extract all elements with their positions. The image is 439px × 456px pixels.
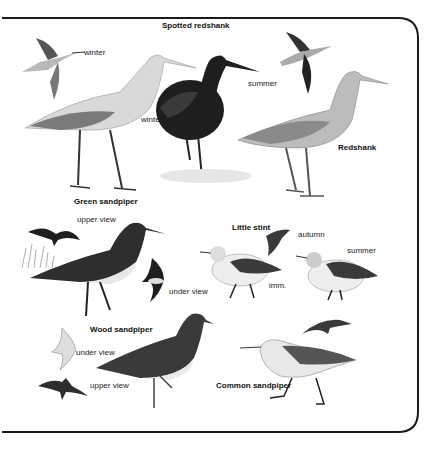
grass-tuft: [22, 244, 54, 268]
little-stint-autumn-flight-illustration: [266, 230, 290, 256]
green-sandpiper-label: Green sandpiper: [74, 198, 138, 206]
little-stint-label: Little stint: [232, 224, 270, 232]
wood-sandpiper-under-view-flight-illustration: [52, 328, 76, 370]
spotted-redshank-summer-illustration: [156, 55, 260, 183]
redshank-label: Redshank: [338, 144, 376, 152]
green-sandpiper-upper-view-label: upper view: [77, 216, 116, 224]
redshank-illustration: [238, 71, 388, 196]
spotted-redshank-summer-label: summer: [248, 80, 277, 88]
common-sandpiper-label: Common sandpiper: [216, 382, 291, 390]
spotted-redshank-winter-flight-label: winter: [84, 49, 105, 57]
common-sandpiper-illustration: [240, 340, 356, 404]
spotted-redshank-winter-flight-illustration: [22, 38, 85, 100]
little-stint-summer-illustration: [296, 252, 378, 300]
illustration-plate: Spotted redshank winter winter summer Re…: [0, 0, 439, 456]
spotted-redshank-label: Spotted redshank: [162, 22, 230, 30]
green-sandpiper-upper-view-flight-illustration: [28, 228, 80, 246]
wood-sandpiper-under-view-label: under view: [76, 349, 115, 357]
little-stint-summer-label: summer: [347, 247, 376, 255]
wood-sandpiper-upper-view-flight-illustration: [38, 378, 88, 400]
little-stint-autumn-label: autumn: [298, 231, 325, 239]
spotted-redshank-winter-label: winter: [141, 116, 162, 124]
water-ripple: [160, 169, 252, 183]
little-stint-imm-label: imm.: [269, 282, 286, 290]
wood-sandpiper-label: Wood sandpiper: [90, 326, 153, 334]
spotted-redshank-summer-flight-illustration: [280, 32, 332, 94]
wood-sandpiper-upper-view-label: upper view: [90, 382, 129, 390]
green-sandpiper-under-view-label: under view: [169, 288, 208, 296]
common-sandpiper-flight-illustration: [302, 320, 352, 334]
green-sandpiper-under-view-flight-illustration: [142, 258, 164, 302]
